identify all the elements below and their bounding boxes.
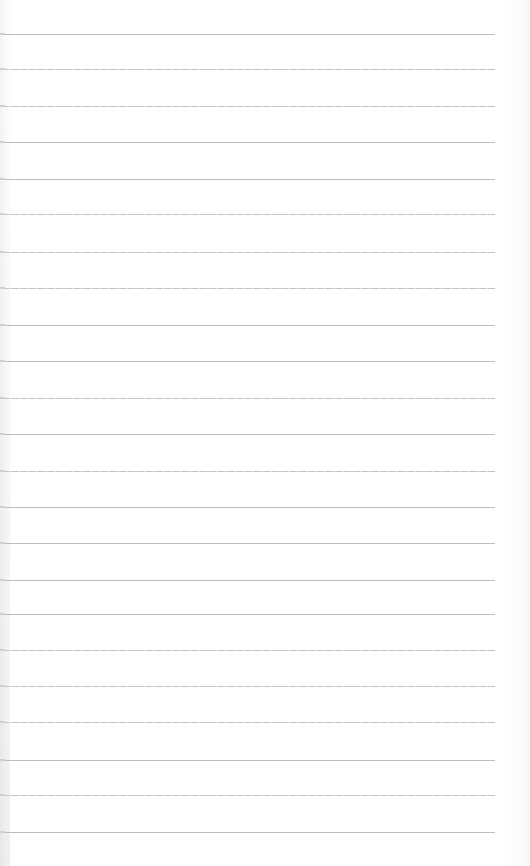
- ruled-line: [2, 614, 495, 615]
- ruled-line: [2, 142, 495, 143]
- margin-tick: [0, 759, 5, 761]
- ruled-line: [2, 471, 495, 472]
- ruled-line: [2, 650, 495, 651]
- ruled-line: [2, 434, 495, 435]
- margin-tick: [0, 721, 5, 723]
- margin-tick: [0, 251, 5, 253]
- margin-tick: [0, 685, 5, 687]
- ruled-line: [2, 69, 495, 70]
- ruled-line: [2, 398, 495, 399]
- ruled-line: [2, 325, 495, 326]
- ruled-line: [2, 507, 495, 508]
- lined-paper-page: [0, 0, 530, 866]
- margin-tick: [0, 213, 5, 215]
- ruled-line: [2, 795, 495, 796]
- margin-tick: [0, 831, 5, 833]
- ruled-line: [2, 686, 495, 687]
- ruled-line: [2, 106, 495, 107]
- margin-tick: [0, 360, 5, 362]
- ruled-line: [2, 543, 495, 544]
- ruled-line: [2, 214, 495, 215]
- ruled-line: [2, 832, 495, 833]
- margin-tick: [0, 68, 5, 70]
- margin-tick: [0, 105, 5, 107]
- margin-tick: [0, 613, 5, 615]
- ruled-line: [2, 34, 495, 35]
- ruled-line: [2, 288, 495, 289]
- margin-tick: [0, 649, 5, 651]
- margin-tick: [0, 324, 5, 326]
- margin-tick: [0, 433, 5, 435]
- margin-tick: [0, 33, 5, 35]
- margin-tick: [0, 178, 5, 180]
- ruled-line: [2, 760, 495, 761]
- margin-tick: [0, 794, 5, 796]
- margin-tick: [0, 506, 5, 508]
- ruled-line: [2, 580, 495, 581]
- margin-tick: [0, 397, 5, 399]
- ruled-line: [2, 722, 495, 723]
- margin-tick: [0, 579, 5, 581]
- margin-tick: [0, 542, 5, 544]
- margin-tick: [0, 470, 5, 472]
- ruled-line: [2, 252, 495, 253]
- ruled-line: [2, 179, 495, 180]
- ruled-line: [2, 361, 495, 362]
- margin-tick: [0, 287, 5, 289]
- margin-tick: [0, 141, 5, 143]
